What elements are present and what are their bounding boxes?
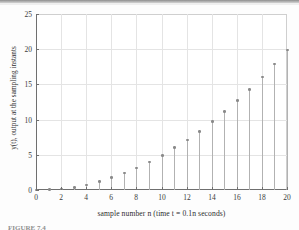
x-tick-label: 18 [251,193,273,202]
scan-edge-highlight [0,3,299,5]
x-tick-label: 10 [151,193,173,202]
y-axis-label: y(t), output at the sampling instants [10,10,18,186]
x-tick-label: 4 [75,193,97,202]
x-tick-label: 16 [226,193,248,202]
x-axis-label: sample number n (time t = 0.1n seconds) [36,209,287,218]
figure-caption-cropped: FIGURE 7.4 [8,224,293,230]
y-tick [36,190,39,191]
x-tick-label: 14 [201,193,223,202]
x-tick-label: 8 [125,193,147,202]
x-tick [287,187,288,190]
figure-caption-text: FIGURE 7.4 [8,224,293,230]
x-tick-label: 2 [50,193,72,202]
stem-line [287,50,288,190]
x-tick-label: 20 [276,193,298,202]
x-tick-label: 0 [25,193,47,202]
y-axis-label-container: y(t), output at the sampling instants [6,14,20,190]
x-tick-label: 6 [100,193,122,202]
plot-area [36,14,287,190]
figure-root: 024681012141618200510152025 sample numbe… [0,0,299,230]
x-tick-label: 12 [176,193,198,202]
